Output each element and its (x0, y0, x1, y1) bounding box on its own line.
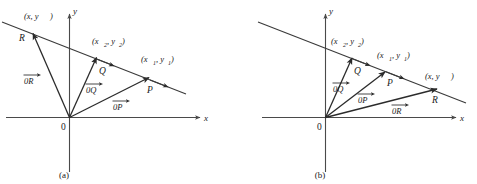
panel-a-x-axis-label: x (203, 113, 208, 123)
panel-b-coord-label-P: (x 1 , y 1 ) (377, 50, 410, 62)
panel-a-vec-OR-text: 0R (24, 76, 34, 86)
panel-b-point-label-R: R (431, 95, 438, 105)
panel-b-coord-R-text: (x, y (425, 71, 440, 81)
panel-a-vec-OQ-text: 0Q (86, 85, 96, 95)
panel-b-coord-label-Q: (x 2 , y 2 ) (331, 36, 364, 48)
panel-b-vec-OR-text: 0R (392, 106, 402, 116)
panel-a-vec-OP-text: 0P (113, 102, 122, 112)
panel-b-vector-label-OQ: 0Q (333, 83, 349, 94)
panel-a-point-label-R: R (18, 33, 25, 43)
panel-b-y-axis-label: y (328, 6, 333, 16)
vector-diagram-figure: x y 0 R Q P (x, y ) (x 2 , y 2 ) (x 1 (0, 0, 477, 184)
panel-b-coord-P-mid: , y (392, 50, 400, 60)
panel-a-coord-label-R: (x, y ) (24, 11, 53, 21)
panel-a-coord-P-mid: , y (156, 54, 164, 64)
panel-b-coord-Q-close: ) (360, 36, 364, 46)
panel-a-coord-R-text: (x, y (24, 11, 39, 21)
panel-b-coord-R-close: ) (450, 71, 454, 81)
panel-a-coord-P-close: ) (170, 54, 174, 64)
panel-a-vector-label-OP: 0P (113, 101, 129, 112)
panel-a-y-axis-label: y (72, 6, 77, 16)
panel-b-line-arrow-1 (352, 59, 368, 65)
panel-a: x y 0 R Q P (x, y ) (x 2 , y 2 ) (x 1 (2, 6, 208, 180)
panel-a-line-arrow-1 (96, 59, 112, 65)
panel-b-vector-label-OR: 0R (392, 105, 408, 116)
panel-a-point-label-Q: Q (99, 66, 106, 76)
panel-a-vector-label-OR: 0R (24, 75, 40, 86)
panel-a-coord-Q-mid: , y (107, 36, 115, 46)
diagram-svg: x y 0 R Q P (x, y ) (x 2 , y 2 ) (x 1 (0, 0, 477, 184)
panel-b-caption: (b) (315, 170, 326, 180)
panel-a-coord-R-close: ) (49, 11, 53, 21)
panel-a-coord-P-open: (x (141, 54, 148, 64)
panel-b-x-axis-label: x (459, 113, 464, 123)
panel-b: x y 0 Q P R (x 2 , y 2 ) (x 1 , y 1 ) (258, 6, 466, 180)
panel-a-vector-label-OQ: 0Q (86, 84, 102, 95)
panel-b-coord-Q-open: (x (331, 36, 338, 46)
panel-b-vec-OP-text: 0P (358, 95, 367, 105)
panel-a-coord-label-Q: (x 2 , y 2 ) (92, 36, 125, 48)
panel-a-point-label-P: P (146, 85, 153, 95)
panel-a-caption: (a) (59, 170, 69, 180)
panel-a-coord-Q-close: ) (121, 36, 125, 46)
panel-b-vec-OQ-text: 0Q (333, 84, 343, 94)
panel-b-origin-label: 0 (317, 122, 322, 132)
panel-a-coord-label-P: (x 1 , y 1 ) (141, 54, 174, 66)
panel-b-point-label-P: P (386, 78, 393, 88)
panel-a-vector-OP (70, 78, 150, 118)
panel-b-coord-P-close: ) (406, 50, 410, 60)
panel-b-vector-OP (326, 72, 386, 118)
panel-b-point-label-Q: Q (354, 66, 361, 76)
panel-a-coord-Q-open: (x (92, 36, 99, 46)
panel-b-coord-P-open: (x (377, 50, 384, 60)
panel-b-vector-label-OP: 0P (358, 94, 374, 105)
panel-a-origin-label: 0 (61, 122, 66, 132)
panel-b-coord-Q-mid: , y (346, 36, 354, 46)
panel-b-coord-label-R: (x, y ) (425, 71, 454, 81)
